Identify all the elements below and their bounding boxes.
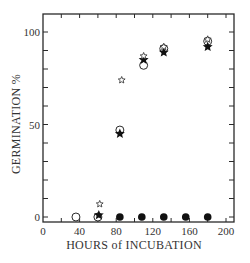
x-tick-label: 80 [111,225,123,237]
open-star-marker [118,77,125,84]
y-axis-title: GERMINATION % [9,74,23,174]
series-open-star [96,36,211,207]
open-circle-marker [140,61,148,69]
germination-chart: 04080120160200050100 HOURS of INCUBATION… [0,0,250,263]
x-tick-label: 40 [74,225,86,237]
y-tick-label: 0 [35,211,41,223]
x-tick-label: 120 [145,225,162,237]
x-tick-label: 200 [218,225,235,237]
filled-circle-marker [204,213,212,221]
series-filled-star [94,42,213,220]
filled-circle-marker [182,213,190,221]
filled-circle-marker [160,213,168,221]
x-tick-label: 160 [181,225,198,237]
y-tick-label: 100 [24,26,41,38]
open-circle-marker [72,213,80,221]
tick-labels: 04080120160200050100 [24,26,235,237]
series-open-circle [72,37,212,221]
x-axis-title: HOURS of INCUBATION [66,238,202,252]
open-star-marker [96,200,103,207]
filled-circle-marker [116,213,124,221]
data-points [72,36,213,221]
x-tick-label: 0 [40,225,46,237]
filled-circle-marker [138,213,146,221]
y-tick-label: 50 [29,119,41,131]
series-filled-circle [116,213,211,221]
